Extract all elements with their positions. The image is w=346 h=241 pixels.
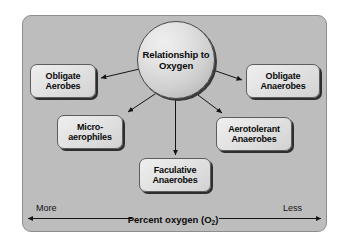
node-obligate-anaerobes: Obligate Anaerobes	[246, 64, 320, 98]
node-obligate-anaerobes-label: Obligate Anaerobes	[260, 71, 305, 92]
node-aerotolerant-anaerobes-label: Aerotolerant Anaerobes	[228, 124, 280, 145]
node-obligate-aerobes: Obligate Aerobes	[30, 64, 96, 98]
axis-caption-prefix: Percent oxygen (O	[128, 214, 212, 225]
oxygen-relationship-diagram: Relationship to Oxygen Obligate Aerobes …	[0, 0, 346, 241]
axis-caption-suffix: )	[215, 214, 218, 225]
axis-label-less: Less	[283, 203, 302, 213]
node-faculative-anaerobes: Faculative Anaerobes	[139, 158, 211, 192]
central-node-relationship-to-oxygen: Relationship to Oxygen	[137, 21, 215, 99]
node-obligate-aerobes-label: Obligate Aerobes	[46, 71, 81, 92]
axis-label-more: More	[36, 203, 57, 213]
node-microaerophiles: Micro- aerophiles	[57, 115, 123, 149]
axis-caption-subscript: 2	[212, 219, 216, 226]
node-faculative-anaerobes-label: Faculative Anaerobes	[152, 165, 197, 186]
node-aerotolerant-anaerobes: Aerotolerant Anaerobes	[216, 117, 292, 151]
node-microaerophiles-label: Micro- aerophiles	[68, 122, 112, 143]
axis-caption: Percent oxygen (O2)	[0, 214, 346, 225]
central-node-label: Relationship to Oxygen	[138, 49, 214, 72]
